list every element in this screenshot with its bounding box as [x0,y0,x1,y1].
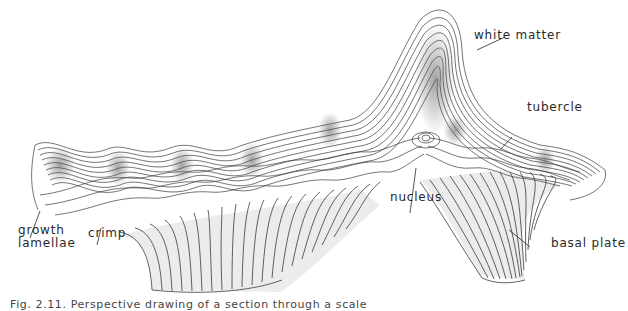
label-nucleus: nucleus [390,191,442,204]
label-white-matter: white matter [474,29,561,42]
left-limb-underside [120,182,380,292]
label-lamellae: lamellae [18,237,76,250]
right-limb-underside [420,170,560,283]
label-basal-plate: basal plate [551,237,626,250]
label-crimp: crimp [88,227,126,240]
label-tubercle: tubercle [527,101,583,114]
figure-caption: Fig. 2.11. Perspective drawing of a sect… [10,299,367,311]
